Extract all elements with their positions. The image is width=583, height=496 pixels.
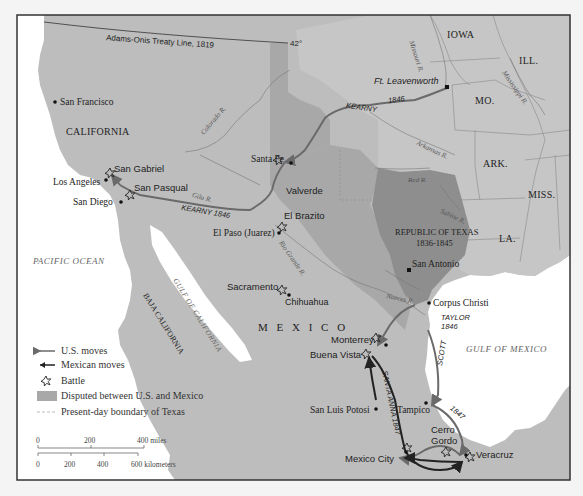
battle-label-monterrey: Monterrey [331,335,374,345]
battle-label-el-brazito: El Brazito [284,211,325,221]
route-label-taylor: TAYLOR [441,314,470,322]
battle-label-mexico-city: Mexico City [345,454,394,464]
city-label-ft-leavenworth: Ft. Leavenworth [374,77,439,86]
battle-label-san-pasqual: San Pasqual [134,183,188,193]
legend-item-us-moves: U.S. moves [37,345,107,356]
route-label-taylor-year: 1846 [441,323,458,331]
battle-label-gordo: Gordo [431,436,457,446]
scale-miles-0: 0 [36,436,40,445]
state-label-louisiana: LA. [499,234,516,244]
scale-km-400: 400 [97,460,108,469]
map-canvas [0,0,583,496]
legend-item-mexican-moves: Mexican moves [37,359,125,370]
scale-miles-400: 400 miles [137,436,166,445]
state-label-arkansas: ARK. [483,159,508,169]
city-label-tampico: Tampico [397,406,430,416]
region-label-california: CALIFORNIA [66,127,130,137]
state-label-missouri: MO. [475,96,495,106]
river-label-red: Red R. [408,177,427,184]
legend-item-disputed: Disputed between U.S. and Mexico [37,390,203,401]
scale-miles-200: 200 [84,436,95,445]
legend-item-texas-boundary: Present-day boundary of Texas [37,406,185,417]
battle-label-buena-vista: Buena Vista [310,350,361,360]
city-label-san-luis-potosi: San Luis Potosi [310,406,370,416]
water-label-gulf-of-mexico: GULF OF MEXICO [466,345,547,354]
parallel-label: 42° [290,40,302,48]
legend-label: Disputed between U.S. and Mexico [61,390,203,401]
city-label-el-paso: El Paso (Juarez) [213,229,275,239]
battle-label-valverde: Valverde [286,186,323,196]
scale-km-200: 200 [64,460,75,469]
state-label-illinois: ILL. [519,56,538,66]
route-label-kearny-north-year: 1846 [388,95,406,105]
region-label-texas-years: 1836-1845 [416,239,453,248]
city-label-los-angeles: Los Angeles [53,178,100,188]
legend-label: U.S. moves [61,345,107,356]
legend-label: Present-day boundary of Texas [61,406,185,417]
water-label-pacific-ocean: PACIFIC OCEAN [33,257,105,266]
battle-label-san-gabriel: San Gabriel [114,164,164,174]
scale-km-0: 0 [36,460,40,469]
city-label-corpus-christi: Corpus Christi [433,299,489,309]
legend-label: Battle [61,375,85,386]
battle-label-sacramento: Sacramento [227,282,278,292]
city-label-san-antonio: San Antonio [412,260,459,270]
city-label-san-diego: San Diego [73,198,113,208]
city-label-chihuahua: Chihuahua [285,298,329,307]
scale-km-600: 600 kilometers [131,460,176,469]
battle-label-cerro: Cerro [431,425,455,435]
state-label-iowa: IOWA [447,30,474,40]
city-label-san-francisco: San Francisco [60,98,114,108]
state-label-mississippi: MISS. [528,190,555,200]
city-label-santa-fe: Santa Fe [251,155,284,165]
legend-label: Mexican moves [61,359,125,370]
region-label-republic-of-texas: REPUBLIC OF TEXAS [395,228,478,237]
battle-label-veracruz: Veracruz [476,450,514,460]
legend-item-battle: Battle [37,375,85,386]
country-label-mexico: M E X I C O [258,322,348,333]
